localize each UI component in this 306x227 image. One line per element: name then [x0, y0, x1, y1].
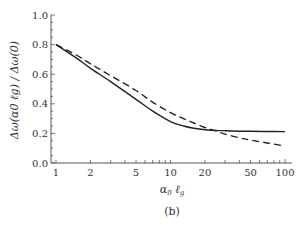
x-tick-label: 20	[199, 167, 212, 178]
y-tick-label: 0.8	[32, 39, 48, 50]
y-tick-label: 0.6	[32, 69, 48, 80]
y-axis-ticks: 0.00.20.40.60.81.0	[32, 10, 55, 169]
x-axis-ticks: 125102050100	[53, 159, 295, 178]
x-tick-label: 10	[164, 167, 177, 178]
y-tick-label: 0.4	[32, 98, 48, 109]
x-tick-label: 50	[244, 167, 257, 178]
y-tick-label: 0.2	[32, 128, 48, 139]
x-axis-label: α0 ℓg	[160, 183, 185, 197]
line-chart: 0.00.20.40.60.81.0 125102050100 Δω(α0 ℓg…	[0, 0, 306, 227]
series-solid-line	[56, 45, 285, 132]
data-series	[56, 45, 285, 146]
y-tick-label: 0.0	[32, 158, 48, 169]
y-tick-label: 1.0	[32, 10, 48, 21]
x-tick-label: 100	[275, 167, 294, 178]
x-tick-label: 5	[133, 167, 139, 178]
x-tick-label: 1	[53, 167, 59, 178]
y-axis-label: Δω(α0 ℓg) / Δω(0)	[8, 41, 21, 140]
x-tick-label: 2	[87, 167, 93, 178]
panel-label: (b)	[164, 205, 180, 218]
